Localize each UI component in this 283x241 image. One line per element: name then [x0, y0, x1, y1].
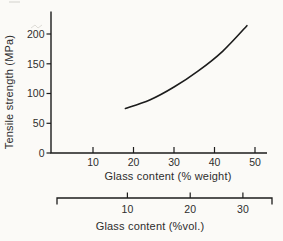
x-tick-label-10: 10	[87, 156, 99, 168]
y-tick-label-50: 50	[33, 117, 45, 129]
x2-axis-label: Glass content (%vol.)	[96, 220, 205, 232]
x2-tick-label-30: 30	[237, 203, 249, 215]
figure: 1020304050050100150200102030 Glass conte…	[0, 0, 283, 241]
x-axis-label: Glass content (% weight)	[104, 170, 231, 182]
x-tick-label-20: 20	[128, 156, 140, 168]
x-tick-label-40: 40	[209, 156, 221, 168]
chart-plot: 1020304050050100150200102030	[27, 12, 272, 215]
x2-tick-label-10: 10	[122, 203, 134, 215]
x2-tick-label-20: 20	[184, 203, 196, 215]
axes-lines	[51, 12, 267, 154]
y-tick-label-150: 150	[27, 58, 45, 70]
y-axis-label: Tensile strength (MPa)	[3, 35, 15, 149]
series-curve-0	[125, 26, 246, 109]
x-tick-label-30: 30	[168, 156, 180, 168]
y-tick-label-0: 0	[39, 147, 45, 159]
y-tick-label-100: 100	[27, 87, 45, 99]
x-tick-label-50: 50	[249, 156, 261, 168]
y-tick-label-200: 200	[27, 28, 45, 40]
chart-canvas: 1020304050050100150200102030 Glass conte…	[0, 0, 283, 241]
